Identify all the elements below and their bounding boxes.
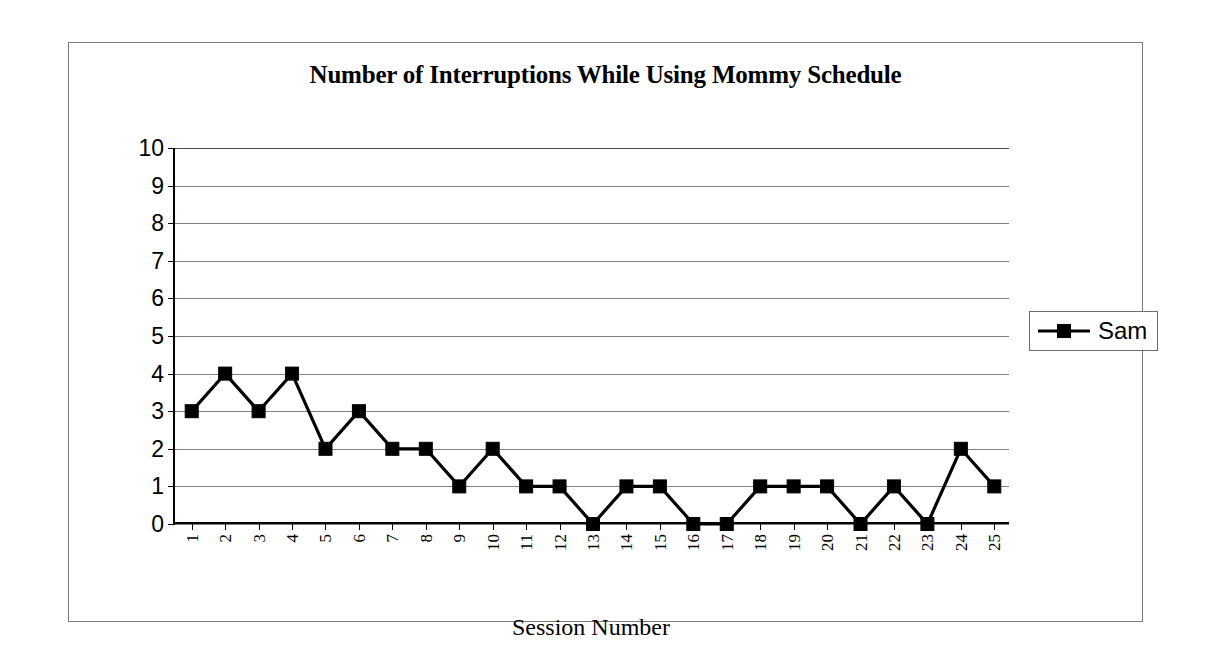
- data-point-marker: [887, 480, 900, 493]
- plot-area: 0123456789101234567891011121314151617181…: [173, 148, 1009, 524]
- y-axis-tick-label: 5: [151, 323, 164, 350]
- chart-page: Number of Interruptions While Using Momm…: [0, 0, 1209, 664]
- data-point-marker: [486, 442, 499, 455]
- y-axis-tick-label: 6: [151, 285, 164, 312]
- legend-marker-icon: [1036, 321, 1092, 341]
- x-axis-tick-label: 1: [183, 534, 200, 543]
- y-axis-tick-label: 2: [151, 435, 164, 462]
- series-layer: [175, 148, 1011, 524]
- x-axis-tick-label: 22: [885, 534, 902, 551]
- plot-inner: 0123456789101234567891011121314151617181…: [175, 148, 1009, 522]
- x-axis-tick-label: 20: [819, 534, 836, 551]
- y-axis-tick-label: 7: [151, 247, 164, 274]
- series-line-sam: [192, 374, 995, 524]
- x-axis-tick-label: 16: [685, 534, 702, 551]
- x-axis-tick-label: 24: [952, 534, 969, 551]
- y-axis-tick-mark: [168, 223, 175, 224]
- x-axis-tick-label: 19: [785, 534, 802, 551]
- y-axis-tick-label: 8: [151, 210, 164, 237]
- x-axis-tick-label: 2: [217, 534, 234, 543]
- x-axis-tick-label: 3: [250, 534, 267, 543]
- data-point-marker: [988, 480, 1001, 493]
- data-point-marker: [787, 480, 800, 493]
- y-axis-tick-mark: [168, 486, 175, 487]
- x-axis-tick-label: 4: [284, 534, 301, 543]
- data-point-marker: [921, 518, 934, 531]
- x-axis-tick-label: 14: [618, 534, 635, 551]
- y-axis-tick-label: 3: [151, 398, 164, 425]
- x-axis-tick-label: 7: [384, 534, 401, 543]
- x-axis-tick-label: 15: [651, 534, 668, 551]
- x-axis-tick-label: 25: [986, 534, 1003, 551]
- y-axis-tick-mark: [168, 449, 175, 450]
- x-axis-tick-label: 5: [317, 534, 334, 543]
- data-point-marker: [520, 480, 533, 493]
- y-axis-tick-label: 4: [151, 360, 164, 387]
- chart-legend: Sam: [1029, 311, 1158, 351]
- y-axis-tick-label: 1: [151, 473, 164, 500]
- data-point-marker: [219, 367, 232, 380]
- y-axis-tick-mark: [168, 186, 175, 187]
- x-axis-tick-label: 6: [350, 534, 367, 543]
- y-axis-tick-label: 9: [151, 172, 164, 199]
- x-axis-tick-label: 9: [451, 534, 468, 543]
- data-point-marker: [653, 480, 666, 493]
- x-axis-title: Session Number: [173, 614, 1009, 641]
- x-axis-tick-label: 18: [752, 534, 769, 551]
- data-point-marker: [286, 367, 299, 380]
- chart-frame: Number of Interruptions While Using Momm…: [68, 42, 1143, 622]
- data-point-marker: [854, 518, 867, 531]
- y-axis-tick-mark: [168, 411, 175, 412]
- data-point-marker: [319, 442, 332, 455]
- data-point-marker: [720, 518, 733, 531]
- data-point-marker: [954, 442, 967, 455]
- data-point-marker: [587, 518, 600, 531]
- data-point-marker: [553, 480, 566, 493]
- data-point-marker: [687, 518, 700, 531]
- y-axis-tick-mark: [168, 336, 175, 337]
- data-point-marker: [352, 405, 365, 418]
- data-point-marker: [252, 405, 265, 418]
- x-axis-tick-label: 13: [585, 534, 602, 551]
- legend-label-sam: Sam: [1098, 317, 1147, 345]
- y-axis-tick-mark: [168, 298, 175, 299]
- data-point-marker: [185, 405, 198, 418]
- y-axis-tick-label: 10: [138, 135, 164, 162]
- data-point-marker: [620, 480, 633, 493]
- x-axis-tick-label: 21: [852, 534, 869, 551]
- y-axis-tick-mark: [168, 374, 175, 375]
- x-axis-tick-label: 10: [484, 534, 501, 551]
- y-axis-tick-mark: [168, 261, 175, 262]
- x-axis-tick-label: 12: [551, 534, 568, 551]
- data-point-marker: [754, 480, 767, 493]
- data-point-marker: [419, 442, 432, 455]
- x-axis-tick-label: 8: [417, 534, 434, 543]
- x-axis-tick-label: 11: [518, 534, 535, 550]
- data-point-marker: [821, 480, 834, 493]
- data-point-marker: [386, 442, 399, 455]
- x-axis-tick-label: 17: [718, 534, 735, 551]
- y-axis-tick-label: 0: [151, 511, 164, 538]
- y-axis-tick-mark: [168, 148, 175, 149]
- y-axis-tick-mark: [168, 524, 175, 525]
- data-point-marker: [453, 480, 466, 493]
- x-axis-tick-label: 23: [919, 534, 936, 551]
- chart-title: Number of Interruptions While Using Momm…: [69, 61, 1142, 89]
